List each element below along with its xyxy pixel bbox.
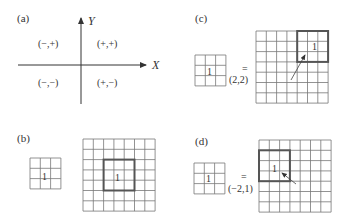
panel-c: (c) 1 = (2,2) 1 — [195, 12, 328, 103]
offset-label: (2,2) — [229, 74, 248, 86]
equals-sign: = — [242, 63, 248, 74]
kernel-value: 1 — [206, 173, 211, 184]
kernel-value: 1 — [42, 171, 47, 182]
panel-b: (b) 1 1 — [17, 132, 155, 211]
quadrant-top-right: (+,+) — [97, 38, 117, 50]
image-grid — [256, 31, 328, 103]
equals-sign: = — [241, 171, 247, 182]
panel-a-label: (a) — [17, 12, 30, 25]
offset-label: (−2,1) — [228, 183, 253, 195]
highlight-value: 1 — [272, 163, 277, 174]
highlight-value: 1 — [312, 41, 317, 52]
panel-a: (a) X Y (−,+) (+,+) (−,−) (+,−) — [17, 12, 160, 104]
quadrant-top-left: (−,+) — [38, 38, 58, 50]
highlight-value: 1 — [115, 172, 120, 183]
x-axis-label: X — [151, 58, 160, 72]
panel-c-label: (c) — [195, 12, 208, 25]
panel-d: (d) 1 = (−2,1) 1 — [194, 135, 331, 212]
kernel-value: 1 — [207, 66, 212, 77]
image-grid — [259, 140, 331, 212]
figure: (a) X Y (−,+) (+,+) (−,−) (+,−) (c) 1 = … — [0, 0, 344, 220]
panel-b-label: (b) — [17, 132, 30, 145]
y-axis-label: Y — [88, 14, 96, 28]
panel-d-label: (d) — [195, 135, 208, 148]
quadrant-bottom-left: (−,−) — [38, 77, 58, 89]
quadrant-bottom-right: (+,−) — [97, 77, 117, 89]
